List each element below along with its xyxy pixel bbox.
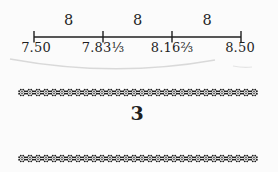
page-number: 3 (130, 104, 143, 123)
ornamental-rule-bottom (18, 153, 258, 164)
tick-value-label: 7.83⅓ (82, 41, 125, 55)
tick-value-label: 8.50 (225, 41, 255, 55)
ornamental-rule-top (18, 87, 258, 98)
segment-length-label: 8 (202, 13, 211, 28)
segment-length-label: 8 (64, 13, 73, 28)
segment-length-label: 8 (133, 13, 142, 28)
scan-shadow-arc (10, 59, 215, 69)
tick-value-label: 8.16⅔ (151, 41, 194, 55)
tick-value-label: 7.50 (21, 41, 51, 55)
number-line-figure: 8 8 8 7.50 7.83⅓ 8.16⅔ 8.50 (0, 0, 278, 82)
scan-shadow-arc-tail (233, 66, 252, 67)
